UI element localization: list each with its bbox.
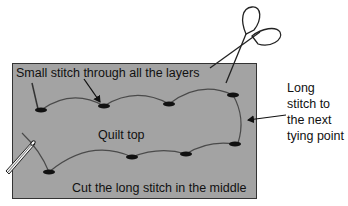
stitch-point (126, 154, 138, 159)
stitch-point (227, 92, 239, 97)
stitch-point (180, 151, 192, 156)
stitch-points (35, 92, 241, 174)
stitch-point (43, 169, 55, 174)
scissors-icon (210, 7, 281, 83)
stitch-point (229, 141, 241, 146)
long-stitch-arrow (248, 115, 286, 120)
stitch-point (35, 107, 47, 112)
stitch-point (98, 103, 110, 108)
needle-icon (6, 140, 36, 174)
diagram-overlay (0, 0, 348, 206)
stitch-point (163, 101, 175, 106)
